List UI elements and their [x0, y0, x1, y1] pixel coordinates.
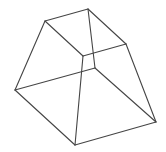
edge-bottom_front-bottom_right [75, 122, 156, 145]
edge-bottom_left-bottom_back [15, 68, 95, 90]
edge-top_right-bottom_right [126, 44, 156, 122]
edge-top_front-top_left [45, 21, 83, 56]
edge-top_left-top_back [45, 9, 88, 21]
edge-top_back-bottom_back [88, 9, 95, 68]
frustum-edges [15, 9, 156, 145]
edge-top_front-bottom_front [75, 56, 83, 145]
edge-bottom_left-bottom_front [15, 90, 75, 145]
frustum-wireframe [0, 0, 166, 152]
edge-bottom_back-bottom_right [95, 68, 156, 122]
edge-top_back-top_right [88, 9, 126, 44]
frustum-diagram [0, 0, 166, 152]
edge-top_right-top_front [83, 44, 126, 56]
edge-top_left-bottom_left [15, 21, 45, 90]
